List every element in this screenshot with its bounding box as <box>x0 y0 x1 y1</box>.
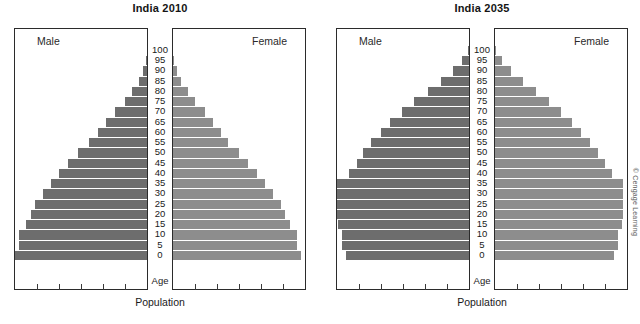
bar-male-age-45 <box>68 159 147 168</box>
bar-female-age-40 <box>173 169 257 178</box>
bar-female-age-95 <box>495 56 502 65</box>
population-tick-3 <box>561 284 562 290</box>
bar-male-age-40 <box>349 169 469 178</box>
bar-female-age-75 <box>173 97 195 106</box>
bar-female-age-45 <box>495 159 605 168</box>
bar-female-age-25 <box>173 200 281 209</box>
male-bars-2010 <box>15 46 147 261</box>
chart-title-2010: India 2010 <box>2 2 318 14</box>
age-tick-label-70: 70 <box>470 106 494 116</box>
bar-male-age-90 <box>143 66 147 75</box>
bar-male-age-50 <box>363 148 469 157</box>
bar-male-age-95 <box>462 56 469 65</box>
bar-female-age-70 <box>495 107 561 116</box>
age-tick-label-5: 5 <box>148 240 172 250</box>
bar-male-age-55 <box>371 138 469 147</box>
population-tick-4 <box>261 284 262 290</box>
bar-male-age-25 <box>35 200 147 209</box>
bar-female-age-40 <box>495 169 612 178</box>
bar-male-age-15 <box>338 220 469 229</box>
age-tick-label-30: 30 <box>470 188 494 198</box>
male-plot-frame-2010: Male <box>14 28 148 290</box>
age-tick-label-0: 0 <box>148 250 172 260</box>
age-tick-label-0: 0 <box>470 250 494 260</box>
bar-female-age-95 <box>173 56 174 65</box>
bar-male-age-30 <box>337 189 469 198</box>
bar-female-age-10 <box>173 230 297 239</box>
bar-male-age-35 <box>337 179 469 188</box>
chart-title-2035: India 2035 <box>324 2 640 14</box>
age-tick-label-50: 50 <box>470 147 494 157</box>
age-tick-label-15: 15 <box>470 219 494 229</box>
population-axis-caption-2035: Population <box>324 296 640 308</box>
population-tick-5 <box>605 284 606 290</box>
age-tick-label-80: 80 <box>148 86 172 96</box>
bar-male-age-95 <box>146 56 147 65</box>
age-tick-label-90: 90 <box>148 65 172 75</box>
age-tick-label-55: 55 <box>470 137 494 147</box>
population-tick-5 <box>283 284 284 290</box>
bar-male-age-90 <box>453 66 469 75</box>
population-tick-5 <box>125 284 126 290</box>
age-tick-label-100: 100 <box>148 45 172 55</box>
bar-male-age-80 <box>428 87 469 96</box>
age-tick-label-60: 60 <box>470 127 494 137</box>
bar-male-age-70 <box>115 107 147 116</box>
copyright-credit: © Cengage Learning <box>632 168 639 236</box>
population-tick-4 <box>103 284 104 290</box>
age-tick-label-70: 70 <box>148 106 172 116</box>
male-plot-frame-2035: Male <box>336 28 470 290</box>
bar-male-age-65 <box>106 118 147 127</box>
bar-female-age-100 <box>495 46 496 55</box>
bar-female-age-80 <box>173 87 188 96</box>
bar-female-age-10 <box>495 230 618 239</box>
population-tick-1 <box>517 284 518 290</box>
female-bars-2010 <box>173 46 305 261</box>
bar-male-age-60 <box>381 128 469 137</box>
bar-male-age-75 <box>414 97 469 106</box>
bar-female-age-55 <box>495 138 590 147</box>
bar-male-age-65 <box>390 118 469 127</box>
bar-female-age-15 <box>173 220 290 229</box>
bar-female-age-90 <box>495 66 511 75</box>
age-axis-2010: Age 051015202530354045505560657075808590… <box>148 28 172 290</box>
bar-male-age-35 <box>51 179 147 188</box>
bar-male-age-0 <box>346 251 469 260</box>
bar-male-age-0 <box>15 251 147 260</box>
population-tick-4 <box>583 284 584 290</box>
age-tick-label-40: 40 <box>148 168 172 178</box>
female-bars-2035 <box>495 46 627 261</box>
bar-male-age-30 <box>43 189 147 198</box>
bar-female-age-85 <box>495 77 523 86</box>
pyramid-panel-2010: India 2010 Male Female Age 0510152025303… <box>2 0 318 324</box>
bar-female-age-20 <box>495 210 623 219</box>
bar-female-age-20 <box>173 210 285 219</box>
population-tick-3 <box>81 284 82 290</box>
population-tick-1 <box>195 284 196 290</box>
bar-female-age-55 <box>173 138 228 147</box>
bar-male-age-70 <box>402 107 469 116</box>
bar-female-age-35 <box>173 179 265 188</box>
bar-male-age-75 <box>125 97 147 106</box>
bar-male-age-55 <box>89 138 147 147</box>
age-tick-label-25: 25 <box>148 199 172 209</box>
age-tick-label-10: 10 <box>148 229 172 239</box>
bar-female-age-65 <box>495 118 572 127</box>
age-tick-label-5: 5 <box>470 240 494 250</box>
bar-female-age-30 <box>173 189 273 198</box>
age-tick-label-45: 45 <box>148 158 172 168</box>
bar-male-age-85 <box>139 77 147 86</box>
bar-male-age-5 <box>19 241 147 250</box>
bar-female-age-5 <box>495 241 618 250</box>
bar-female-age-15 <box>495 220 622 229</box>
age-axis-caption-2035: Age <box>470 275 494 286</box>
age-tick-label-90: 90 <box>470 65 494 75</box>
age-tick-label-95: 95 <box>470 55 494 65</box>
bar-male-age-50 <box>78 148 147 157</box>
age-tick-label-10: 10 <box>470 229 494 239</box>
female-x-ticks-2010 <box>173 284 305 290</box>
bar-female-age-60 <box>495 128 581 137</box>
bar-male-age-25 <box>337 200 469 209</box>
female-plot-frame-2010: Female <box>172 28 306 290</box>
bar-male-age-15 <box>26 220 147 229</box>
